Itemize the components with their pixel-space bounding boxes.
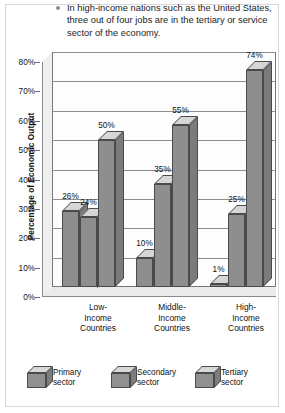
bar-tertiary-sector-0: 50% bbox=[98, 140, 115, 287]
bar-value-label: 50% bbox=[98, 121, 114, 130]
y-tick-label: 20% bbox=[9, 234, 35, 243]
bullet-dot-icon bbox=[56, 6, 60, 10]
bar-secondary-sector-1: 35% bbox=[154, 184, 171, 287]
x-axis-category-line: Middle- bbox=[132, 302, 212, 313]
bar-front-face bbox=[80, 217, 97, 288]
legend-label-line1: Tertiary bbox=[221, 368, 248, 378]
y-tick-mark bbox=[35, 268, 40, 269]
plot-box: 26%24%50%10%35%55%1%25%74% bbox=[42, 52, 276, 297]
legend-label-line2: sector bbox=[53, 378, 81, 388]
bar-front-face bbox=[62, 211, 79, 287]
bar-value-label: 24% bbox=[80, 198, 96, 207]
bar-primary-sector-2: 1% bbox=[210, 284, 227, 287]
bar-secondary-sector-0: 24% bbox=[80, 217, 97, 288]
legend-item-primary[interactable]: Primarysector bbox=[27, 362, 81, 390]
x-axis-category-line: Countries bbox=[58, 323, 138, 334]
bar-primary-sector-0: 26% bbox=[62, 211, 79, 287]
y-tick-mark bbox=[35, 121, 40, 122]
caption: In high-income nations such as the Unite… bbox=[56, 2, 278, 39]
legend-label-line1: Secondary bbox=[137, 368, 176, 378]
x-axis-category-line: Countries bbox=[206, 323, 285, 334]
x-axis-category-line: Income bbox=[132, 313, 212, 324]
y-tick-mark bbox=[35, 209, 40, 210]
bar-value-label: 25% bbox=[228, 195, 244, 204]
cube-front-face bbox=[195, 373, 214, 388]
y-tick-label: 70% bbox=[9, 87, 35, 96]
legend-label-line2: sector bbox=[137, 378, 176, 388]
x-axis-category-label: High-IncomeCountries bbox=[206, 302, 285, 334]
bar-tertiary-sector-2: 74% bbox=[246, 70, 263, 287]
bar-value-label: 35% bbox=[154, 165, 170, 174]
y-tick-mark bbox=[35, 62, 40, 63]
y-tick-label: 10% bbox=[9, 263, 35, 272]
bar-value-label: 1% bbox=[213, 265, 225, 274]
y-tick-mark bbox=[35, 91, 40, 92]
bar-value-label: 26% bbox=[62, 192, 78, 201]
bar-value-label: 10% bbox=[136, 239, 152, 248]
bar-side-face bbox=[189, 116, 198, 287]
cube-front-face bbox=[111, 373, 130, 388]
x-axis-category-label: Middle-IncomeCountries bbox=[132, 302, 212, 334]
bars-layer: 26%24%50%10%35%55%1%25%74% bbox=[42, 52, 276, 297]
y-tick-mark bbox=[35, 180, 40, 181]
cube-icon bbox=[111, 366, 137, 390]
y-tick-mark bbox=[35, 150, 40, 151]
x-axis-category-line: Low- bbox=[58, 302, 138, 313]
legend-label: Tertiarysector bbox=[221, 362, 248, 388]
bar-front-face bbox=[210, 284, 227, 287]
legend-label-line2: sector bbox=[221, 378, 248, 388]
y-tick-label: 60% bbox=[9, 116, 35, 125]
cube-front-face bbox=[27, 373, 46, 388]
bar-front-face bbox=[246, 70, 263, 287]
bar-tertiary-sector-1: 55% bbox=[172, 125, 189, 287]
chart-area: Percentage of Economic Output 0%10%20%30… bbox=[5, 52, 279, 352]
bar-front-face bbox=[172, 125, 189, 287]
caption-text: In high-income nations such as the Unite… bbox=[67, 2, 278, 39]
legend-label: Secondarysector bbox=[137, 362, 176, 388]
y-tick-label: 30% bbox=[9, 204, 35, 213]
bar-front-face bbox=[98, 140, 115, 287]
bar-side-face bbox=[115, 131, 124, 287]
chart-legend: PrimarysectorSecondarysectorTertiarysect… bbox=[5, 358, 279, 404]
bar-front-face bbox=[136, 258, 153, 287]
x-axis-labels: Low-IncomeCountriesMiddle-IncomeCountrie… bbox=[42, 302, 276, 350]
legend-label: Primarysector bbox=[53, 362, 81, 388]
y-tick-label: 0% bbox=[9, 293, 35, 302]
y-tick-label: 40% bbox=[9, 175, 35, 184]
legend-label-line1: Primary bbox=[53, 368, 81, 378]
x-axis-category-line: Income bbox=[206, 313, 285, 324]
bar-value-label: 74% bbox=[246, 51, 262, 60]
x-axis-category-label: Low-IncomeCountries bbox=[58, 302, 138, 334]
bar-side-face bbox=[263, 61, 272, 287]
bar-primary-sector-1: 10% bbox=[136, 258, 153, 287]
cube-icon bbox=[195, 366, 221, 390]
bar-secondary-sector-2: 25% bbox=[228, 214, 245, 287]
y-tick-label: 50% bbox=[9, 146, 35, 155]
cube-icon bbox=[27, 366, 53, 390]
y-tick-label: 80% bbox=[9, 58, 35, 67]
y-tick-mark bbox=[35, 238, 40, 239]
y-tick-mark bbox=[35, 297, 40, 298]
legend-item-tertiary[interactable]: Tertiarysector bbox=[195, 362, 248, 390]
x-axis-category-line: Income bbox=[58, 313, 138, 324]
y-axis: 0%10%20%30%40%50%60%70%80% bbox=[5, 52, 35, 297]
bar-front-face bbox=[228, 214, 245, 287]
x-axis-category-line: Countries bbox=[132, 323, 212, 334]
bar-value-label: 55% bbox=[172, 106, 188, 115]
x-axis-category-line: High- bbox=[206, 302, 285, 313]
bar-front-face bbox=[154, 184, 171, 287]
legend-item-secondary[interactable]: Secondarysector bbox=[111, 362, 176, 390]
